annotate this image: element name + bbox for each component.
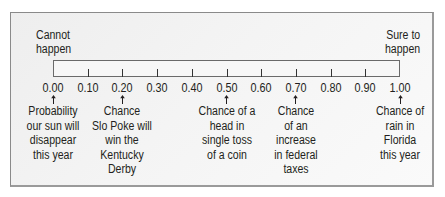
annotation-line: Chance [83,104,162,119]
tick-label: 0.20 [104,81,140,95]
up-arrow-icon [292,95,299,104]
annotation-line: our sun will [13,119,92,134]
cannot-happen-line-2: happen [36,42,71,56]
annotation-line: Chance [256,104,335,119]
annotation-line: Florida [360,133,439,148]
up-arrow-icon [223,95,230,104]
annotation-line: Chance of a [187,104,266,119]
annotation-note: Chance of ahead insingle tossof a coin [187,104,266,162]
annotation-line: single toss [187,133,266,148]
scale-tick [88,69,89,77]
tick-label: 0.10 [70,81,106,95]
tick-label: 1.00 [382,81,418,95]
annotation-line: of an [256,119,335,134]
annotation-line: Kentucky [83,148,162,163]
annotation-note: Chanceof anincreasein federaltaxes [256,104,335,177]
annotation-line: in federal [256,148,335,163]
annotation-line: this year [13,148,92,163]
annotation-line: win the [83,133,162,148]
cannot-happen-line-1: Cannot [36,28,71,42]
scale-tick [296,69,297,77]
tick-label: 0.90 [347,81,383,95]
sure-to-happen-line-2: happen [385,42,420,56]
scale-tick [157,69,158,77]
scale-tick [261,69,262,77]
scale-tick [227,69,228,77]
tick-label: 0.40 [174,81,210,95]
tick-label: 0.30 [139,81,175,95]
annotation-note: Probabilityour sun willdisappearthis yea… [13,104,92,162]
annotation-line: of a coin [187,148,266,163]
annotation-note: ChanceSlo Poke willwin theKentuckyDerby [83,104,162,177]
annotation-line: Chance of [360,104,439,119]
cannot-happen-label: Cannot happen [36,28,71,56]
scale-tick [365,69,366,77]
tick-label: 0.00 [35,81,71,95]
tick-label: 0.80 [313,81,349,95]
annotation-note: Chance ofrain inFloridathis year [360,104,439,162]
annotation-line: taxes [256,162,335,177]
annotation-line: rain in [360,119,439,134]
scale-tick [122,69,123,77]
up-arrow-icon [397,95,404,104]
annotation-line: Slo Poke will [83,119,162,134]
annotation-line: head in [187,119,266,134]
tick-label: 0.70 [278,81,314,95]
annotation-line: disappear [13,133,92,148]
up-arrow-icon [50,95,57,104]
sure-to-happen-label: Sure to happen [385,28,420,56]
tick-label: 0.50 [209,81,245,95]
scale-tick [192,69,193,77]
annotation-line: this year [360,148,439,163]
annotation-line: increase [256,133,335,148]
scale-tick [331,69,332,77]
up-arrow-icon [119,95,126,104]
annotation-line: Probability [13,104,92,119]
sure-to-happen-line-1: Sure to [385,28,420,42]
annotation-line: Derby [83,162,162,177]
tick-label: 0.60 [243,81,279,95]
